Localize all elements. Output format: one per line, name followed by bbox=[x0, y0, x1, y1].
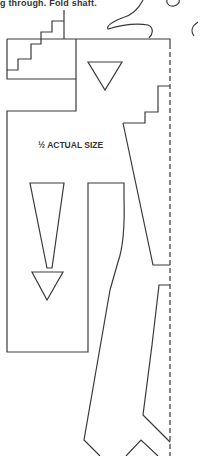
cutout-pattern-diagram bbox=[0, 0, 202, 456]
figure-right-slope bbox=[123, 123, 170, 265]
figure-leg-outer bbox=[84, 290, 158, 456]
bird-head-outline bbox=[108, 0, 153, 38]
stair-step-block bbox=[7, 10, 76, 79]
bird-eye-circle bbox=[167, 0, 179, 6]
arrow-head bbox=[32, 272, 63, 300]
frame-top-edge bbox=[7, 39, 170, 44]
figure-leg-inner bbox=[143, 285, 170, 442]
arrow-shaft bbox=[30, 183, 64, 268]
figure-torso-edge bbox=[123, 86, 170, 123]
small-down-triangle bbox=[88, 62, 122, 90]
figure-right-curve bbox=[192, 22, 198, 36]
scale-label: ½ ACTUAL SIZE bbox=[38, 140, 103, 150]
